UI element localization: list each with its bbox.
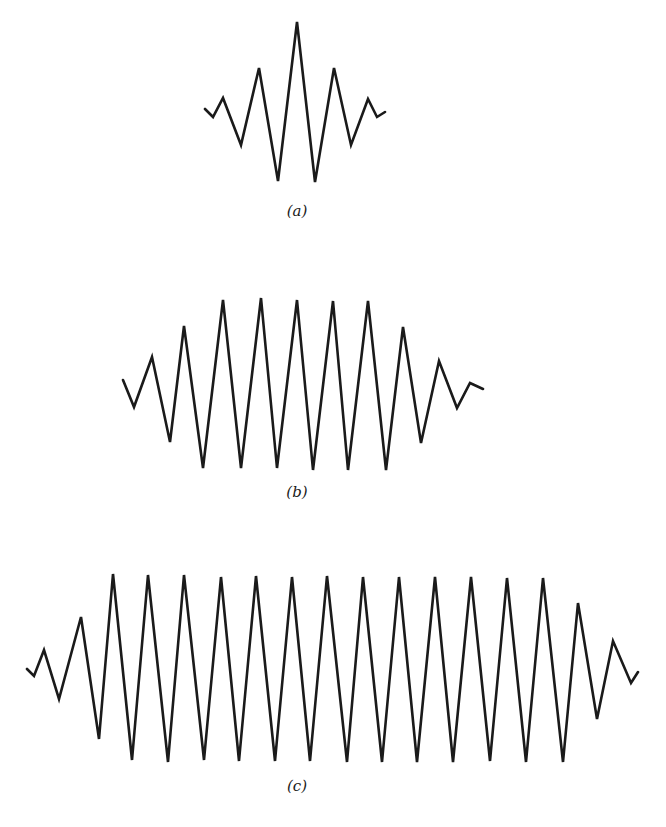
wave-packet-c xyxy=(27,574,638,762)
wave-packet-a xyxy=(205,22,385,182)
caption-c: (c) xyxy=(287,777,307,795)
caption-a: (a) xyxy=(287,202,308,220)
wave-packets-figure xyxy=(0,0,666,827)
wave-packet-b xyxy=(123,298,483,470)
caption-b: (b) xyxy=(286,483,307,501)
